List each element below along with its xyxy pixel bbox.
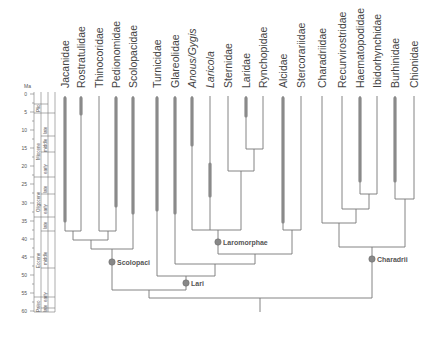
node-marker-lari <box>183 280 189 286</box>
taxon-label-pedionomidae: Pedionomidae <box>110 21 122 88</box>
taxon-label-laridae: Laridae <box>240 53 252 88</box>
tick-label-5: 5 <box>24 109 27 115</box>
phylogeny-diagram: Ma 0 5 10 15 20 25 30 35 40 45 50 55 60 … <box>0 0 439 338</box>
tick-label-20: 20 <box>21 163 27 169</box>
branch-larinae <box>228 149 254 171</box>
taxon-label-burhinidae: Burhinidae <box>389 38 401 88</box>
branch-laridae-rynchopidae <box>246 96 263 149</box>
sub-late-oligocene: late <box>43 185 48 193</box>
branch-thinocoridae-pedionomidae <box>99 96 116 231</box>
tick-label-45: 45 <box>21 254 27 260</box>
taxon-label-glareolidae: Glareolidae <box>169 34 181 88</box>
branch-charadrioidea-inner <box>322 209 356 223</box>
branch-alcidae-stercorariidae <box>283 96 301 230</box>
tick-label-55: 55 <box>21 290 27 296</box>
tick-label-40: 40 <box>21 236 27 242</box>
epoch-oligocene: Oligocene <box>36 191 41 212</box>
taxon-labels: Jacanidae Rostratulidae Thinocoridae Ped… <box>59 8 420 89</box>
fossil-ranges <box>65 98 395 222</box>
node-label-charadrii: Charadrii <box>377 256 408 263</box>
taxon-label-anous-gygis: Anous/Gygis <box>186 28 198 89</box>
sub-early-oligocene: early <box>43 203 48 214</box>
branch-burhinidae-chionidae <box>395 96 414 199</box>
branch-root-connector <box>149 290 372 298</box>
branch-haematopodidae-ibidorhynchidae <box>360 96 377 194</box>
taxon-label-rynchopidae: Rynchopidae <box>257 27 269 88</box>
tick-label-15: 15 <box>21 145 27 151</box>
branch-haematopodoidea <box>342 194 369 209</box>
tick-label-0: 0 <box>24 91 27 97</box>
taxon-label-rostratulidae: Rostratulidae <box>75 26 87 88</box>
taxon-label-turnicidae: Turnicidae <box>151 39 163 88</box>
node-label-lari: Lari <box>191 280 204 287</box>
tick-label-30: 30 <box>21 200 27 206</box>
branch-jacanoidea <box>73 231 108 240</box>
tick-label-50: 50 <box>21 272 27 278</box>
branch-glareolidae-laromorphae <box>175 254 255 264</box>
epoch-paleocene: Paleo <box>36 300 41 312</box>
branch-turnicidae-rest <box>157 264 215 276</box>
branch-scolopaci-inner <box>91 96 133 249</box>
node-marker-laromorphae <box>215 239 221 245</box>
epoch-eocene: Eocene <box>36 252 41 268</box>
timescale: Ma 0 5 10 15 20 25 30 35 40 45 50 55 60 … <box>21 83 55 314</box>
epoch-miocene: Miocene <box>36 142 41 160</box>
taxon-label-alcidae: Alcidae <box>277 53 289 88</box>
node-label-laromorphae: Laromorphae <box>223 239 268 247</box>
taxon-label-laricola: Laricola <box>204 51 216 88</box>
sub-middle-eocene: middle <box>43 251 48 265</box>
branch-laridae-clade <box>192 171 241 230</box>
sub-late-miocene: late <box>43 126 48 134</box>
taxon-label-scolopacidae: Scolopacidae <box>127 25 139 88</box>
taxon-label-sternidae: Sternidae <box>222 43 234 88</box>
tick-label-35: 35 <box>21 218 27 224</box>
taxon-label-chionidae: Chionidae <box>408 41 420 88</box>
branch-jacanidae-rostratulidae <box>65 96 81 231</box>
tick-label-60: 60 <box>21 308 27 314</box>
sub-early-eocene: early <box>43 291 48 302</box>
tick-label-10: 10 <box>21 127 27 133</box>
taxon-label-haematopodidae: Haematopodidae <box>354 8 366 88</box>
taxon-label-stercorariidae: Stercorariidae <box>295 22 307 88</box>
taxon-label-jacanidae: Jacanidae <box>59 40 71 88</box>
sub-middle-miocene: middle <box>43 138 48 152</box>
sub-late-eocene: late <box>43 221 48 229</box>
node-label-scolopaci: Scolopaci <box>117 259 150 267</box>
sub-early-miocene: early <box>43 163 48 174</box>
taxon-label-charadriidae: Charadriidae <box>316 28 328 88</box>
taxon-label-ibidorhynchidae: Ibidorhynchidae <box>371 14 383 88</box>
axis-unit-label: Ma <box>24 83 31 89</box>
taxon-label-recurvirostridae: Recurvirostridae <box>336 11 348 88</box>
axis-ticks: 0 5 10 15 20 25 30 35 40 45 50 55 60 <box>21 91 34 314</box>
taxon-label-thinocoridae: Thinocoridae <box>93 27 105 88</box>
node-marker-scolopaci <box>109 259 115 265</box>
sub-late-paleocene: late <box>43 304 48 312</box>
node-labels: Scolopaci Lari Laromorphae Charadrii <box>109 239 408 287</box>
tick-label-25: 25 <box>21 181 27 187</box>
node-marker-charadrii <box>369 256 375 262</box>
epoch-pliocene: Plio <box>36 104 41 112</box>
